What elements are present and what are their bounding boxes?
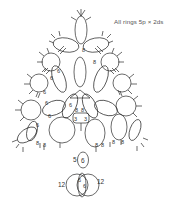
svg-text:6: 6 xyxy=(36,122,39,128)
center-left-label: 3 xyxy=(74,116,77,122)
svg-text:8: 8 xyxy=(95,142,98,148)
big-ring-left-label: 12 xyxy=(58,181,66,188)
svg-text:8: 8 xyxy=(43,142,46,148)
svg-text:8: 8 xyxy=(36,140,39,146)
center-right-label: 3 xyxy=(84,116,87,122)
svg-text:6: 6 xyxy=(43,89,46,95)
svg-text:6: 6 xyxy=(48,113,51,119)
svg-text:8: 8 xyxy=(101,142,104,148)
svg-text:6: 6 xyxy=(45,100,48,106)
svg-text:6: 6 xyxy=(57,68,60,74)
svg-text:8: 8 xyxy=(121,139,124,145)
tatting-diagram: 8 8 6 6 6 6 6 6 8 8 6 8 8 8 8 8 8 3 3 5 … xyxy=(0,0,190,203)
top-flower xyxy=(49,9,113,54)
count-labels: 8 8 6 6 6 6 6 6 8 8 6 8 8 8 8 8 8 3 3 5 … xyxy=(36,47,124,189)
svg-text:8: 8 xyxy=(81,107,84,113)
inner-right-label: 6 xyxy=(83,183,86,189)
stem-ring-label: 6 xyxy=(81,157,85,164)
big-ring-right-label: 12 xyxy=(97,178,105,185)
inner-left-label: 6 xyxy=(78,177,81,183)
svg-text:8: 8 xyxy=(93,59,96,65)
svg-text:8: 8 xyxy=(75,107,78,113)
stem-chain-label: 5 xyxy=(73,156,77,163)
row-four xyxy=(15,90,142,121)
svg-text:6: 6 xyxy=(69,102,72,108)
svg-text:6: 6 xyxy=(50,75,53,81)
svg-text:8: 8 xyxy=(82,47,85,53)
row-three xyxy=(24,64,137,94)
svg-text:8: 8 xyxy=(112,139,115,145)
row-five xyxy=(12,113,148,152)
